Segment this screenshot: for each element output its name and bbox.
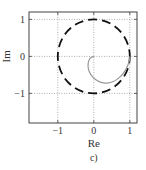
nyquist-chart: −101 −101 Re Im c) xyxy=(0,0,146,170)
x-tick-label: 1 xyxy=(127,125,132,136)
x-tick-label: 0 xyxy=(91,125,96,136)
y-axis-label: Im xyxy=(0,50,12,63)
plot-frame xyxy=(29,12,137,123)
y-tick-label: −1 xyxy=(14,88,25,99)
trajectory-curve xyxy=(88,56,130,83)
y-tick-labels: −101 xyxy=(14,14,25,99)
y-tick-label: 0 xyxy=(20,51,25,62)
x-tick-labels: −101 xyxy=(52,125,132,136)
axis-ticks xyxy=(29,12,137,123)
grid-lines xyxy=(29,12,137,123)
y-tick-label: 1 xyxy=(20,14,25,25)
x-tick-label: −1 xyxy=(52,125,63,136)
figure-caption: c) xyxy=(90,152,98,164)
x-axis-label: Re xyxy=(88,137,100,149)
